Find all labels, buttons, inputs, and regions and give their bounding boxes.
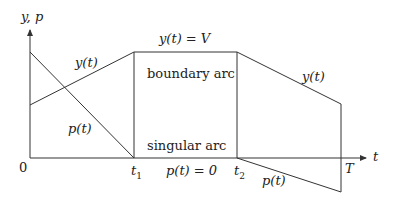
y-rise-label: y(t) xyxy=(75,56,98,69)
singular-arc-label: singular arc xyxy=(147,139,226,152)
boundary-arc-label: boundary arc xyxy=(147,67,235,80)
y-axis-label: y, p xyxy=(21,10,43,23)
p-zero-label: p(t) = 0 xyxy=(166,164,217,177)
t1-label: t1 xyxy=(131,164,142,181)
p-curve-final xyxy=(237,158,341,192)
boundary-equation-label: y(t) = V xyxy=(159,32,210,45)
p-neg-label: p(t) xyxy=(262,174,286,187)
y-fall-label: y(t) xyxy=(302,70,325,83)
t2-label: t2 xyxy=(234,164,245,181)
p-fall-label: p(t) xyxy=(68,122,92,135)
T-label: T xyxy=(345,162,354,175)
x-axis-label: t xyxy=(373,150,378,163)
origin-label: 0 xyxy=(19,161,27,174)
